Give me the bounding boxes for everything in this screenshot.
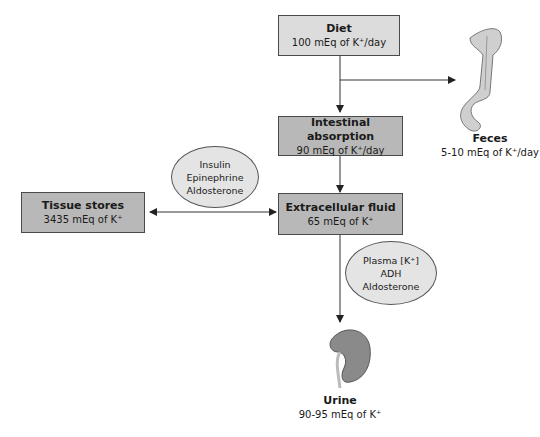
colon-icon [461,29,502,131]
feces-label: Feces 5-10 mEq of K⁺/day [440,132,540,159]
ecf-value: 65 mEq of K⁺ [279,215,402,228]
tissue-stores-box: Tissue stores 3435 mEq of K⁺ [21,192,145,233]
urine-title: Urine [290,394,390,408]
regulator-adh: ADH [346,267,436,280]
diet-title: Diet [279,22,399,36]
kidney-icon [330,330,370,388]
extracellular-fluid-box: Extracellular fluid 65 mEq of K⁺ [278,193,403,235]
diet-box: Diet 100 mEq of K⁺/day [278,15,400,56]
regulator-aldosterone-2: Aldosterone [346,280,436,293]
tissue-regulators-ellipse: Insulin Epinephrine Aldosterone [171,146,259,208]
urine-value: 90-95 mEq of K⁺ [290,408,390,421]
urine-regulators-ellipse: Plasma [K⁺] ADH Aldosterone [345,241,437,305]
intestinal-absorption-box: Intestinal absorption 90 mEq of K⁺/day [278,116,403,156]
intestinal-title: Intestinal absorption [279,116,402,144]
feces-value: 5-10 mEq of K⁺/day [440,146,540,159]
diet-value: 100 mEq of K⁺/day [279,36,399,49]
regulator-plasma-k: Plasma [K⁺] [346,254,436,267]
regulator-insulin: Insulin [172,158,258,171]
regulator-aldosterone: Aldosterone [172,184,258,197]
intestinal-value: 90 mEq of K⁺/day [279,144,402,157]
ecf-title: Extracellular fluid [279,201,402,215]
feces-title: Feces [440,132,540,146]
urine-label: Urine 90-95 mEq of K⁺ [290,394,390,421]
tissue-title: Tissue stores [22,199,144,213]
tissue-value: 3435 mEq of K⁺ [22,213,144,226]
regulator-epinephrine: Epinephrine [172,171,258,184]
